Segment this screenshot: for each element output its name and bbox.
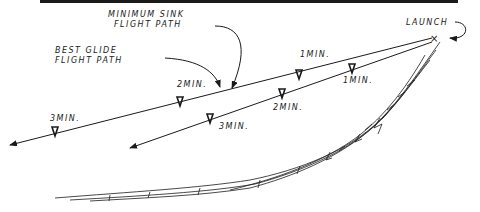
min-sink-1min-label: 1MIN. bbox=[343, 76, 373, 85]
best-glide-label-line2: FLIGHT PATH bbox=[55, 56, 123, 65]
glider-sink-2min-icon bbox=[279, 89, 285, 98]
diagram-drawing: × bbox=[0, 0, 480, 212]
min-sink-label-line2: FLIGHT PATH bbox=[114, 20, 182, 29]
glider-sink-1min-icon bbox=[349, 64, 355, 73]
launch-loop-arrow bbox=[450, 22, 466, 38]
min-sink-3min-label: 3MIN. bbox=[219, 122, 249, 131]
glider-best-3min-icon bbox=[52, 127, 58, 136]
min-sink-label-line1: MINIMUM SINK bbox=[108, 10, 184, 19]
best-glide-1min-label: 1MIN. bbox=[300, 50, 330, 59]
glide-path-diagram: × MINIMUM SINK FLIGHT PATH BEST GLIDE FL… bbox=[0, 0, 480, 212]
best-glide-3min-label: 3MIN. bbox=[50, 114, 80, 123]
glider-sink-3min-icon bbox=[207, 114, 213, 123]
min-sink-leader-arrow bbox=[215, 26, 241, 88]
launch-point-x: × bbox=[430, 33, 438, 44]
glider-markers bbox=[52, 64, 355, 136]
min-sink-2min-label: 2MIN. bbox=[273, 103, 303, 112]
best-glide-label-line1: BEST GLIDE bbox=[55, 46, 117, 55]
launch-label: LAUNCH bbox=[406, 18, 448, 27]
best-glide-2min-label: 2MIN. bbox=[177, 80, 207, 89]
